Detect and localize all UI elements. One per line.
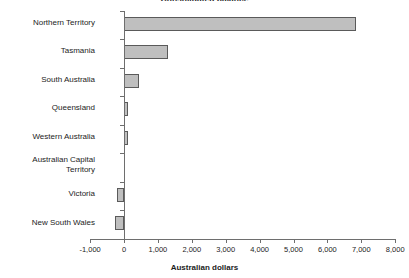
bar-victoria: [117, 188, 124, 202]
value-tick-label: 4,000: [250, 245, 269, 254]
category-tick: [120, 153, 124, 154]
category-tick: [120, 39, 124, 40]
value-tick: [158, 239, 159, 243]
value-tick-label: 0: [122, 245, 126, 254]
value-tick-label: 5,000: [284, 245, 303, 254]
value-tick-label: 2,000: [182, 245, 201, 254]
category-label: Queensland: [0, 103, 95, 113]
category-tick: [120, 96, 124, 97]
category-label: New South Wales: [0, 218, 95, 228]
category-label: Australian Capital Territory: [0, 155, 95, 174]
x-axis-title: Australian dollars: [0, 263, 409, 272]
value-tick-label: 7,000: [352, 245, 371, 254]
value-axis-line: [90, 239, 395, 240]
value-tick: [361, 239, 362, 243]
value-tick-label: 8,000: [386, 245, 405, 254]
value-tick: [192, 239, 193, 243]
category-label: Western Australia: [0, 132, 95, 142]
value-tick: [294, 239, 295, 243]
category-tick: [120, 68, 124, 69]
plot-area: Northern Territory Tasmania South Austra…: [0, 0, 409, 278]
category-tick: [120, 182, 124, 183]
bar-south-australia: [124, 74, 139, 88]
value-tick-label: 3,000: [216, 245, 235, 254]
category-tick: [120, 11, 124, 12]
value-tick-label: 6,000: [318, 245, 337, 254]
value-tick-label: -1,000: [79, 245, 100, 254]
category-label: Victoria: [0, 189, 95, 199]
category-axis-line: [124, 11, 125, 239]
value-tick: [395, 239, 396, 243]
category-tick: [120, 125, 124, 126]
bar-northern-territory: [124, 17, 356, 31]
category-tick: [120, 210, 124, 211]
category-label: Northern Territory: [0, 18, 95, 28]
bar-new-south-wales: [115, 216, 124, 230]
value-tick: [124, 239, 125, 243]
bar-tasmania: [124, 45, 168, 59]
value-tick-label: 1,000: [149, 245, 168, 254]
category-label: South Australia: [0, 75, 95, 85]
value-tick: [327, 239, 328, 243]
value-tick: [90, 239, 91, 243]
value-tick: [260, 239, 261, 243]
category-label: Tasmania: [0, 46, 95, 56]
value-tick: [226, 239, 227, 243]
bar-chart: Consolidated balance Northern Territory …: [0, 0, 409, 278]
